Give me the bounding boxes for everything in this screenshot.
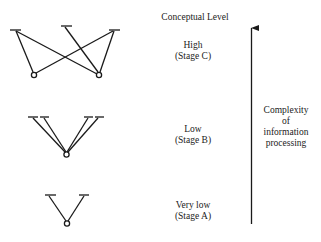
node-circle [64,221,69,226]
node-circle [96,72,101,77]
stage-c-structure [10,26,120,78]
stage-b-level: Low [153,124,233,135]
connection-line [16,31,33,72]
connection-line [16,31,97,74]
connection-line [33,118,65,152]
node-circle [64,152,69,157]
stage-c-label: (Stage C) [153,51,233,62]
axis-label-line: Complexity [255,105,317,116]
stage-a-label: (Stage A) [153,211,233,222]
axis-label-line: processing [255,138,317,149]
axis-label-line: information [255,127,317,138]
stage-c-level: High [153,40,233,51]
connection-line [68,118,98,152]
connection-line [68,196,84,221]
complexity-axis-label: Complexity of information processing [255,105,317,149]
conceptual-level-heading: Conceptual Level [150,12,240,23]
stage-b-structure [28,117,104,157]
node-circle [31,72,36,77]
axis-label-line: of [255,116,317,127]
connection-line [67,118,88,152]
stage-a-level: Very low [153,200,233,211]
stage-b-label: (Stage B) [153,135,233,146]
connection-line [44,118,66,152]
connection-line [49,196,66,221]
stage-a-structure [45,195,89,226]
